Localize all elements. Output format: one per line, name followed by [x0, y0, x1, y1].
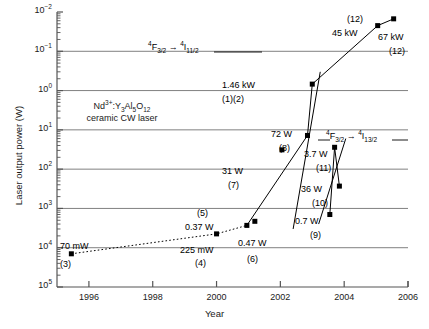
point-ref-10: (10): [312, 198, 328, 208]
material-annotation: Nd3+:Y3Al5O12 ceramic CW laser: [62, 100, 182, 124]
data-point-marker: [310, 82, 315, 87]
data-point-marker: [337, 184, 342, 189]
data-point-marker: [327, 212, 332, 217]
point-ref-11: (11): [316, 163, 331, 173]
point-label-72w: 72 W: [271, 129, 292, 139]
point-ref-9: (9): [310, 230, 321, 240]
y-tick-label: 10−2: [18, 6, 52, 15]
point-ref-4: (4): [195, 258, 206, 268]
material-description: ceramic CW laser: [86, 113, 157, 123]
chart-container: 10510410310210110010−110−2 1996199820002…: [0, 0, 429, 329]
data-point-marker: [391, 16, 396, 21]
data-point-marker: [305, 133, 310, 138]
x-tick-label: 1996: [69, 293, 109, 302]
point-label-225mw: 225 mW: [180, 245, 214, 255]
x-tick-label: 2000: [197, 293, 237, 302]
point-label-67kw: 67 kW: [378, 32, 404, 42]
x-tick-label: 2004: [324, 293, 364, 302]
point-label-70mw: 70 mW: [60, 241, 89, 251]
point-label-36w: 36 W: [301, 184, 322, 194]
y-axis-title: Laser output power (W): [13, 76, 24, 236]
y-tick-label: 104: [18, 242, 52, 251]
data-point-marker: [214, 231, 219, 236]
point-label-37w: 3.7 W: [304, 149, 328, 159]
point-label-45kw: 45 kW: [332, 28, 358, 38]
x-tick-label: 2006: [388, 293, 428, 302]
point-ref-12a: (12): [347, 14, 363, 24]
transition-label-13half: 4F3/2 → 4I13/2: [326, 131, 377, 141]
point-ref-5: (5): [197, 208, 208, 218]
point-ref-3: (3): [60, 259, 71, 269]
transition-leader-lines: [214, 52, 408, 229]
chart-svg: [0, 0, 429, 329]
y-tick-label: 10−1: [18, 45, 52, 54]
data-point-marker: [244, 223, 249, 228]
ticks-group: [57, 12, 408, 287]
axes-group: [57, 12, 408, 287]
transition-label-11half: 4F3/2 → 4I11/2: [148, 42, 199, 52]
y-tick-label: 105: [18, 281, 52, 290]
data-point-marker: [252, 219, 257, 224]
point-ref-8: (8): [279, 143, 290, 153]
point-label-146kw: 1.46 kW: [222, 80, 255, 90]
data-point-marker: [69, 251, 74, 256]
point-ref-12b: (12): [389, 46, 405, 56]
data-point-marker: [375, 23, 380, 28]
point-label-037w: 0.37 W: [185, 222, 214, 232]
point-ref-7: (7): [228, 180, 239, 190]
x-axis-title: Year: [0, 308, 429, 319]
point-ref-1-2: (1)(2): [222, 94, 244, 104]
data-point-marker: [332, 145, 337, 150]
point-label-07w: 0.7 W: [295, 216, 319, 226]
point-ref-6: (6): [247, 254, 258, 264]
material-formula: Nd3+:Y3Al5O12: [94, 101, 151, 111]
x-tick-label: 1998: [133, 293, 173, 302]
point-label-047w: 0.47 W: [238, 238, 267, 248]
point-label-31w: 31 W: [222, 166, 243, 176]
x-tick-label: 2002: [260, 293, 300, 302]
